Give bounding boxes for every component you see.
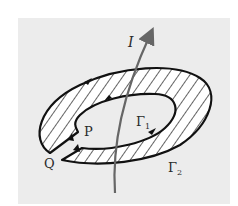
inner-curve-symbol: Γ: [136, 114, 145, 129]
outer-curve-subscript: 2: [177, 168, 182, 177]
cut-arrow-icon: [73, 144, 80, 152]
annular-surface: [40, 68, 212, 163]
current-label: I: [127, 34, 134, 50]
point-p-label: P: [84, 124, 93, 139]
inner-curve-subscript: 1: [145, 122, 150, 131]
inner-curve-label: Γ1: [136, 114, 150, 131]
point-q-label: Q: [44, 156, 55, 171]
outer-curve-symbol: Γ: [168, 160, 177, 175]
ampere-diagram: I P Q Γ1 Γ2: [0, 0, 238, 206]
outer-curve-label: Γ2: [168, 160, 182, 177]
